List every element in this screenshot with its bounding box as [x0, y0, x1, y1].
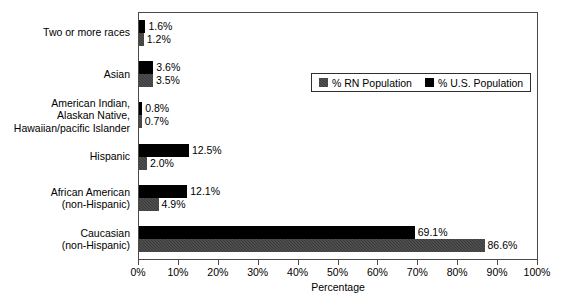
x-axis-tick [338, 260, 339, 265]
x-axis-title: Percentage [138, 281, 538, 293]
chart-figure: Two or more racesAsianAmerican Indian,Al… [0, 0, 566, 302]
bar-value-label: 69.1% [418, 226, 448, 239]
bar-value-label: 0.7% [145, 115, 169, 128]
x-axis-tick-label: 90% [487, 266, 508, 278]
x-axis-tick-labels: 0%10%20%30%40%50%60%70%80%90%100% [0, 266, 566, 280]
bar-rn-population [139, 239, 485, 252]
x-axis-tick [457, 260, 458, 265]
legend-swatch-icon [425, 78, 434, 87]
category-label-line: Caucasian [0, 227, 130, 240]
category-label-line: American Indian, [0, 97, 130, 110]
x-axis-tick-label: 100% [524, 266, 551, 278]
x-axis-tick [377, 260, 378, 265]
bar-rn-population [139, 198, 159, 211]
x-axis-tick [497, 260, 498, 265]
category-axis-labels: Two or more racesAsianAmerican Indian,Al… [0, 0, 134, 302]
bar-us-population [139, 20, 145, 33]
bar-us-population [139, 144, 189, 157]
bars-layer: 1.6%1.2%3.6%3.5%0.8%0.7%12.5%2.0%12.1%4.… [139, 12, 538, 260]
x-axis-tick [298, 260, 299, 265]
x-axis-tick-label: 50% [327, 266, 348, 278]
bar-rn-population [139, 115, 142, 128]
bar-value-label: 0.8% [145, 102, 169, 115]
bar-value-label: 3.6% [156, 61, 180, 74]
bar-rn-population [139, 74, 153, 87]
bar-value-label: 4.9% [162, 198, 186, 211]
bar-value-label: 86.6% [488, 239, 518, 252]
legend-swatch-icon [319, 78, 328, 87]
x-axis-tick [537, 260, 538, 265]
bar-rn-population [139, 157, 147, 170]
x-axis-tick-label: 70% [407, 266, 428, 278]
legend-entry: % U.S. Population [425, 77, 523, 89]
chart-legend: % RN Population% U.S. Population [311, 73, 531, 92]
category-label: Caucasian(non-Hispanic) [0, 227, 134, 252]
legend-entry: % RN Population [319, 77, 412, 89]
category-label: African American(non-Hispanic) [0, 186, 134, 211]
bar-value-label: 3.5% [156, 74, 180, 87]
x-axis-tick-label: 10% [167, 266, 188, 278]
bar-value-label: 1.2% [147, 33, 171, 46]
x-axis-tick [178, 260, 179, 265]
category-label-line: Alaskan Native, [0, 109, 130, 122]
category-label-line: Two or more races [0, 26, 130, 39]
bar-us-population [139, 61, 153, 74]
bar-us-population [139, 102, 142, 115]
bar-rn-population [139, 33, 144, 46]
x-axis-tick [218, 260, 219, 265]
x-axis-tick [417, 260, 418, 265]
x-axis-tick-label: 80% [447, 266, 468, 278]
x-axis-tick-label: 60% [367, 266, 388, 278]
category-label-line: (non-Hispanic) [0, 239, 130, 252]
category-label: Hispanic [0, 150, 134, 163]
x-axis-tick-label: 0% [130, 266, 145, 278]
bar-us-population [139, 226, 415, 239]
x-axis-tick [258, 260, 259, 265]
bar-value-label: 2.0% [150, 157, 174, 170]
x-axis-tick [138, 260, 139, 265]
category-label-line: Hispanic [0, 150, 130, 163]
category-label: American Indian,Alaskan Native,Hawaiian/… [0, 97, 134, 135]
category-label-line: (non-Hispanic) [0, 198, 130, 211]
category-label-line: Hawaiian/pacific Islander [0, 122, 130, 135]
legend-label: % RN Population [332, 77, 412, 89]
category-label: Asian [0, 68, 134, 81]
legend-label: % U.S. Population [438, 77, 523, 89]
bar-us-population [139, 185, 187, 198]
bar-value-label: 12.5% [192, 144, 222, 157]
bar-value-label: 1.6% [148, 20, 172, 33]
category-label: Two or more races [0, 26, 134, 39]
x-axis-tick-label: 20% [207, 266, 228, 278]
bar-value-label: 12.1% [190, 185, 220, 198]
category-label-line: Asian [0, 68, 130, 81]
x-axis-tick-label: 40% [287, 266, 308, 278]
category-label-line: African American [0, 186, 130, 199]
x-axis-tick-label: 30% [247, 266, 268, 278]
